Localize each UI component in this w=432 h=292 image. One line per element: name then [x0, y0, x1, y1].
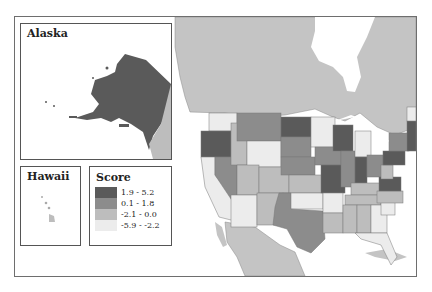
state-oregon: [201, 131, 231, 157]
state-north-dakota: [281, 117, 311, 137]
state-maine: [407, 107, 416, 121]
state-new-england: [407, 121, 416, 151]
state-indiana: [355, 157, 367, 183]
state-ohio: [367, 155, 383, 177]
hawaii-map: [21, 167, 81, 245]
legend-swatch: [95, 187, 117, 198]
legend-label: -2.1 - 0.0: [121, 210, 157, 219]
state-louisiana: [323, 213, 343, 233]
state-arkansas: [323, 193, 343, 213]
state-north-carolina: [377, 191, 403, 203]
state-wisconsin: [333, 125, 353, 151]
state-south-dakota: [281, 137, 311, 157]
legend-swatch: [95, 209, 117, 220]
legend-swatch: [95, 198, 117, 209]
state-montana: [237, 113, 281, 141]
legend-label: -5.9 - -2.2: [121, 221, 160, 230]
legend-item: 1.9 - 5.2: [95, 187, 154, 198]
state-pennsylvania: [383, 151, 405, 165]
state-new-york: [389, 133, 409, 151]
state-illinois: [341, 151, 355, 187]
state-mississippi: [343, 205, 357, 233]
legend-label: 0.1 - 1.8: [121, 199, 154, 208]
alaska-inset: Alaska: [20, 23, 172, 160]
state-kansas: [289, 175, 323, 193]
state-minnesota: [311, 117, 335, 147]
legend-label: 1.9 - 5.2: [121, 188, 154, 197]
legend-title: Score: [96, 171, 131, 184]
state-arizona: [231, 195, 257, 227]
state-utah: [237, 165, 259, 195]
legend-item: -2.1 - 0.0: [95, 209, 157, 220]
map-frame: Alaska Hawaii Score 1.9 - 5.2: [14, 16, 417, 277]
state-alabama: [357, 205, 371, 233]
state-nebraska: [281, 157, 315, 175]
legend-item: 0.1 - 1.8: [95, 198, 154, 209]
hawaii-inset: Hawaii: [20, 166, 81, 246]
state-kentucky: [351, 183, 381, 195]
score-legend: Score 1.9 - 5.2 0.1 - 1.8 -2.1 - 0.0 -5.…: [89, 166, 172, 246]
state-tennessee: [345, 195, 381, 205]
legend-swatch: [95, 220, 117, 231]
state-wyoming: [247, 141, 281, 167]
legend-item: -5.9 - -2.2: [95, 220, 160, 231]
state-michigan: [355, 131, 371, 157]
state-florida: [355, 233, 397, 265]
state-west-virginia: [381, 165, 393, 179]
alaska-map: [21, 24, 171, 159]
